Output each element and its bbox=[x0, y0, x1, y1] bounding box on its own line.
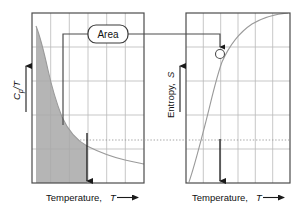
right-y-label-text: Entropy, bbox=[165, 83, 176, 118]
right-panel-x-axis-label: Temperature, T bbox=[192, 192, 284, 203]
left-panel-x-axis-label: Temperature, T bbox=[46, 192, 138, 203]
right-y-label-symbol: S bbox=[165, 71, 176, 78]
left-panel-y-axis-label: C p /T bbox=[11, 80, 25, 100]
area-callout-leader-left bbox=[63, 34, 88, 125]
entropy-panel: Entropy, S Temperature, T bbox=[165, 13, 290, 203]
entropy-value-marker bbox=[216, 50, 225, 59]
thermodynamics-figure: C p /T Temperature, T bbox=[0, 0, 298, 215]
figure-container: C p /T Temperature, T bbox=[0, 0, 298, 215]
left-x-label-symbol: T bbox=[110, 192, 117, 203]
left-y-label-rest: /T bbox=[11, 80, 22, 91]
area-callout[interactable]: Area bbox=[63, 25, 220, 125]
right-x-label-symbol: T bbox=[256, 192, 263, 203]
left-y-label-main: C bbox=[11, 93, 22, 100]
area-callout-leader-right bbox=[128, 34, 220, 47]
left-x-label-text: Temperature, bbox=[46, 192, 102, 203]
right-panel-gridlines bbox=[186, 13, 290, 183]
right-x-label-text: Temperature, bbox=[192, 192, 248, 203]
right-panel-curve bbox=[189, 13, 288, 182]
area-callout-label: Area bbox=[97, 29, 119, 40]
right-panel-y-axis-label: Entropy, S bbox=[165, 71, 176, 118]
